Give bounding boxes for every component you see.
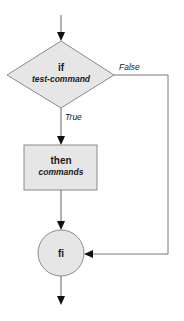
flowchart-canvas: if test-command True then commands False xyxy=(0,0,184,321)
decision-keyword: if xyxy=(58,62,65,73)
exit-arrow xyxy=(57,276,65,305)
process-keyword: then xyxy=(50,155,71,166)
end-keyword: fi xyxy=(58,248,64,259)
decision-node: if test-command xyxy=(7,41,114,108)
end-node: fi xyxy=(38,230,84,276)
process-node: then commands xyxy=(24,145,97,190)
process-text: commands xyxy=(39,167,84,177)
true-label: True xyxy=(65,112,82,122)
entry-arrow xyxy=(57,15,65,41)
decision-condition: test-command xyxy=(32,74,91,84)
process-to-end-arrow xyxy=(57,190,65,230)
false-label: False xyxy=(119,62,140,72)
flowchart-svg: if test-command True then commands False xyxy=(0,0,184,321)
true-edge: True xyxy=(57,108,82,145)
